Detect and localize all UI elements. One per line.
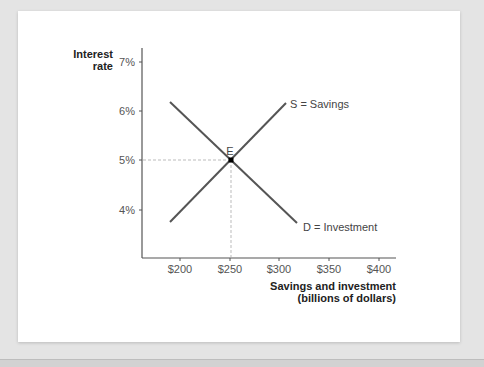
x-tick-labels: $200 $250 $300 $350 $400 [168, 263, 391, 275]
savings-curve-label: S = Savings [290, 98, 350, 110]
equilibrium-point [229, 158, 234, 163]
savings-supply-curve [170, 103, 286, 222]
x-tick-label: $400 [367, 263, 391, 275]
x-tick-label: $300 [267, 263, 291, 275]
x-axis-title-line2: (billions of dollars) [298, 292, 397, 304]
x-tick-label: $200 [168, 263, 192, 275]
y-tick-label: 4% [119, 204, 135, 216]
y-axis-title-line2: rate [93, 60, 113, 72]
x-tick-label: $350 [317, 263, 341, 275]
y-tick-labels: 7% 6% 5% 4% [119, 56, 135, 216]
y-axis-title-line1: Interest [73, 48, 113, 60]
y-tick-label: 6% [119, 105, 135, 117]
y-tick-label: 7% [119, 56, 135, 68]
x-axis-title-line1: Savings and investment [270, 280, 396, 292]
x-tick-label: $250 [218, 263, 242, 275]
investment-curve-label: D = Investment [303, 221, 377, 233]
y-tick-label: 5% [119, 154, 135, 166]
equilibrium-label: E [226, 145, 233, 157]
